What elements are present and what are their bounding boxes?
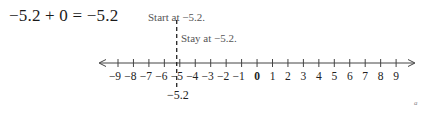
number-line-figure: −5.2 + 0 = −5.2 Start at −5.2. Stay at −… [0,0,426,114]
tick-label: 0 [254,70,260,82]
tick-label: 2 [285,70,291,82]
tick-label: 3 [301,70,307,82]
tick-label: 5 [331,70,337,82]
point-label: −5.2 [167,88,189,103]
corner-mark: a [414,99,418,107]
tick-label: −4 [186,70,198,82]
tick-label: 4 [316,70,322,82]
tick-label: 9 [393,70,399,82]
tick-label: 7 [362,70,368,82]
tick-marks: −9−8−7−6−5−4−3−2−10123456789 [109,59,399,82]
tick-label: −9 [109,70,121,82]
tick-label: 6 [347,70,353,82]
tick-label: −2 [217,70,229,82]
tick-label: −1 [232,70,244,82]
tick-label: 1 [270,70,276,82]
tick-label: −7 [140,70,152,82]
tick-label: 8 [378,70,384,82]
tick-label: −8 [124,70,136,82]
number-line: −9−8−7−6−5−4−3−2−10123456789 [0,0,426,114]
tick-label: −6 [155,70,167,82]
tick-label: −3 [202,70,214,82]
